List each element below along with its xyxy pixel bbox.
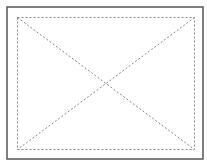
crossed-box-icon xyxy=(0,0,207,166)
image-placeholder xyxy=(0,0,207,166)
